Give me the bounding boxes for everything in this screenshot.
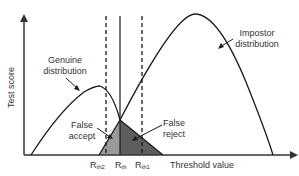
genuine-distribution-label: Genuine distribution [40, 55, 90, 77]
y-axis-arrow-icon [20, 14, 28, 22]
threshold-label-rth2: Rth2 [90, 160, 105, 170]
threshold-label-rth1: Rth1 [135, 160, 150, 170]
impostor-distribution-label: Impostor distribution [232, 28, 282, 50]
x-axis-arrow-icon [290, 151, 298, 159]
false-accept-text: False accept [69, 120, 96, 141]
false-accept-label: False accept [64, 120, 100, 142]
false-reject-label: False reject [163, 118, 193, 140]
false-reject-pointer [135, 125, 162, 139]
false-reject-text: False reject [163, 118, 185, 139]
genuine-label-text: Genuine distribution [43, 55, 87, 76]
impostor-label-text: Impostor distribution [235, 28, 279, 49]
diagram-canvas [0, 0, 299, 176]
y-axis-label: Test score [6, 67, 16, 108]
impostor-pointer-arrow-icon [218, 43, 224, 49]
x-axis-label: Threshold value [170, 160, 234, 170]
threshold-label-rth: Rth [115, 160, 127, 170]
